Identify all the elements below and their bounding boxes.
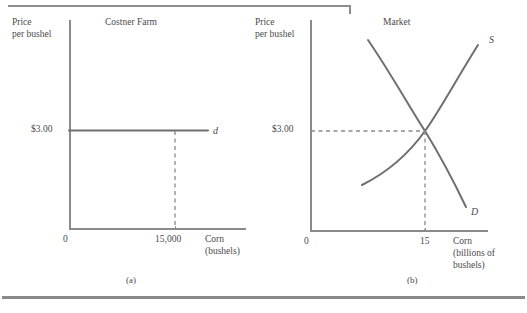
bottom-divider-rule xyxy=(2,296,525,299)
panel-a-caption: (a) xyxy=(126,275,136,287)
panel-market: Price per bushel Market $3.00 S D 0 15 C… xyxy=(258,0,521,296)
panel-b-x-tick-label-15: 15 xyxy=(420,236,430,248)
panel-b-curve-label-supply: S xyxy=(489,34,494,46)
panel-a-curve-label-d: d xyxy=(213,125,218,137)
panel-b-x-axis-label-line1: Corn xyxy=(453,236,472,248)
panel-b-curve-label-demand: D xyxy=(471,206,478,218)
panel-b-x-axis-label-line3: bushels) xyxy=(453,260,485,272)
panel-b-caption: (b) xyxy=(407,275,418,287)
panel-a-x-axis-label-line1: Corn xyxy=(205,234,224,246)
panel-a-origin-label: 0 xyxy=(63,234,68,246)
panel-a-x-tick-label-15000: 15,000 xyxy=(155,234,181,246)
panel-b-x-tick-mark-15 xyxy=(425,228,426,232)
panel-b-origin-label: 0 xyxy=(304,236,309,248)
panel-b-demand-curve xyxy=(368,40,466,207)
panel-b-x-axis-label-line2: (billions of xyxy=(453,248,495,260)
panel-a-x-tick-mark-15000 xyxy=(175,226,176,230)
panel-b-supply-curve xyxy=(362,45,478,185)
panel-a-x-axis-label-line2: (bushels) xyxy=(205,246,240,258)
figure-root: Price per bushel Costner Farm $3.00 d 0 … xyxy=(0,0,527,313)
panel-costner-farm: Price per bushel Costner Farm $3.00 d 0 … xyxy=(0,0,263,296)
